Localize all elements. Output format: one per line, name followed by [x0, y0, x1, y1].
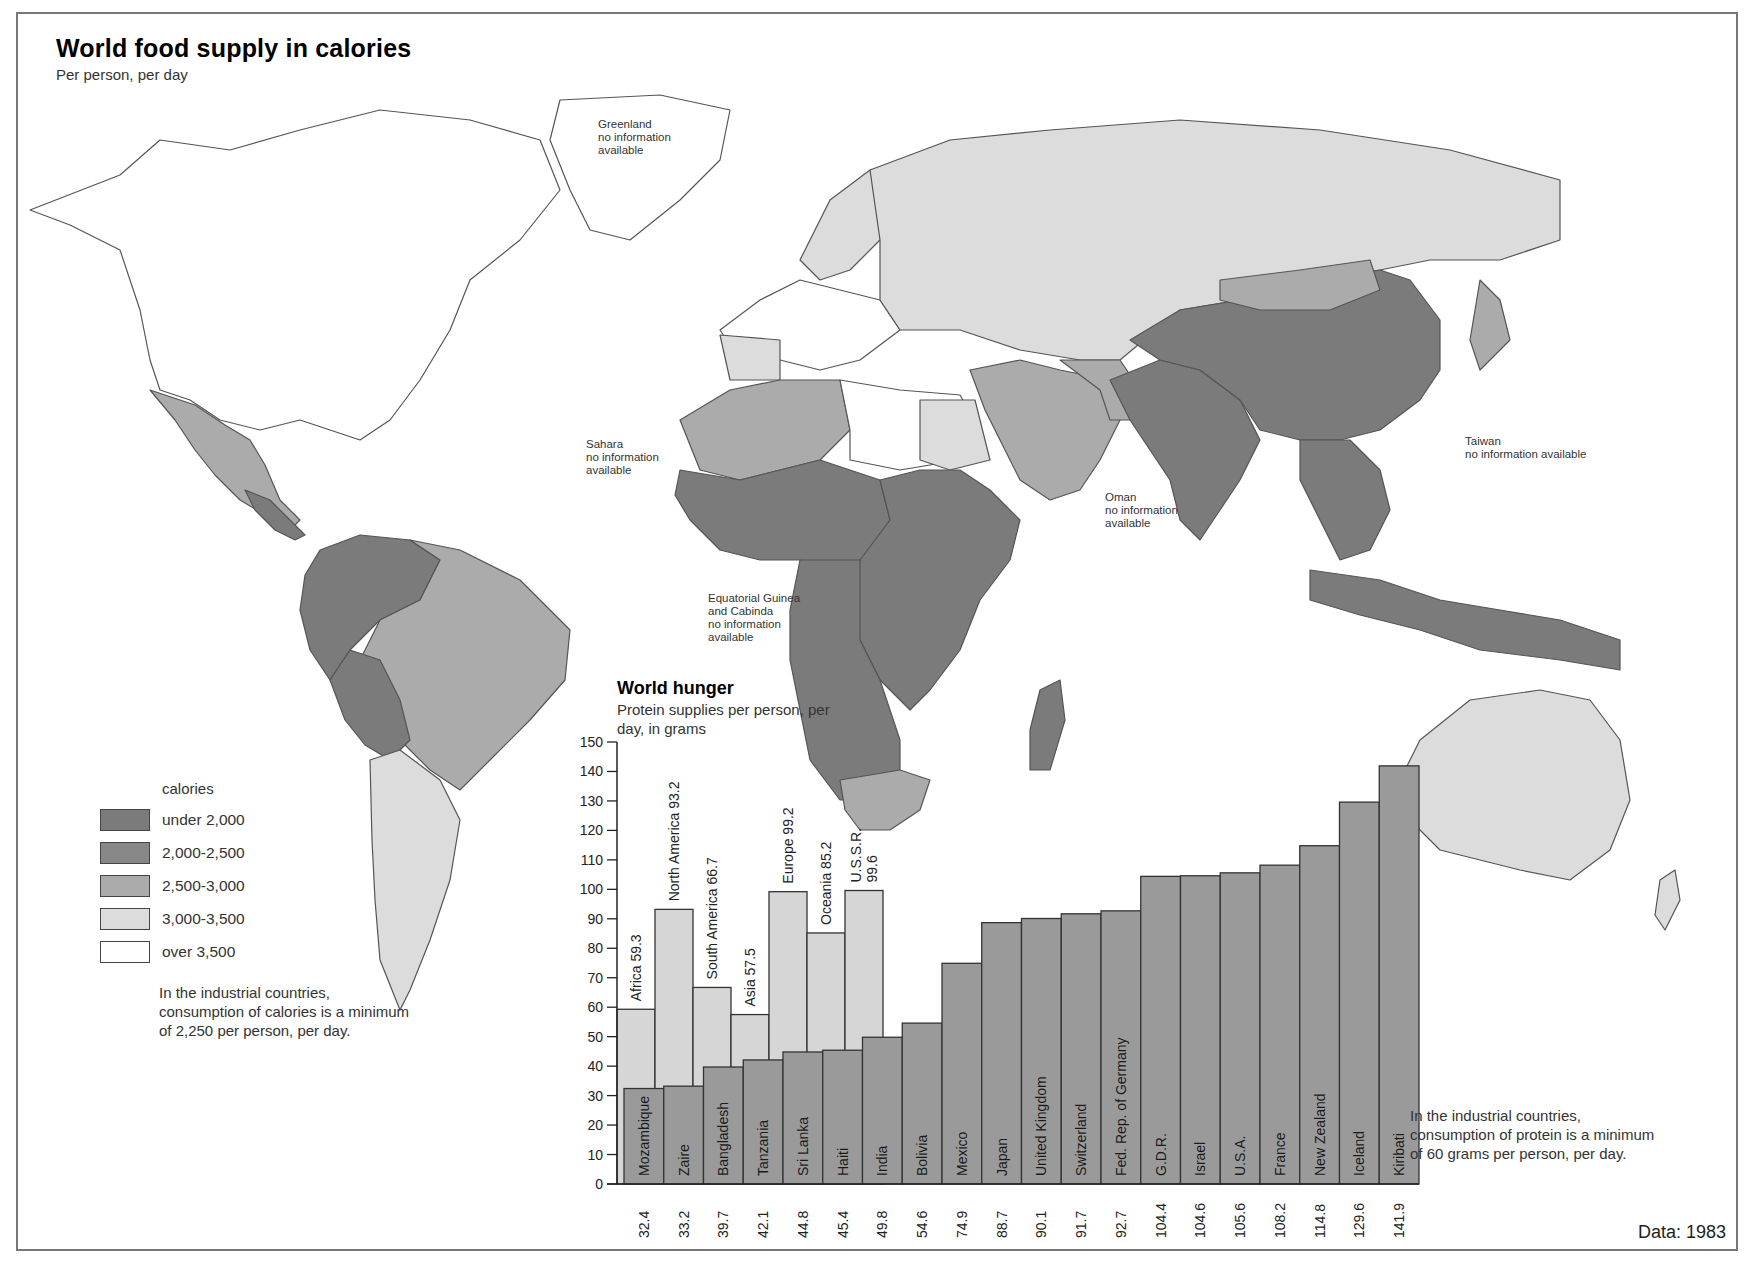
country-label: Fed. Rep. of Germany: [1113, 1037, 1129, 1176]
region-label: Asia 57.5: [742, 948, 758, 1007]
region-label: North America 93.2: [666, 781, 682, 901]
country-label: Switzerland: [1073, 1104, 1089, 1176]
country-value: 45.4: [835, 1211, 851, 1238]
region-value: 99.6: [864, 855, 880, 882]
country-value: 141.9: [1391, 1203, 1407, 1238]
country-label: Sri Lanka: [795, 1117, 811, 1176]
y-tick-label: 90: [587, 911, 603, 927]
country-label: Japan: [994, 1138, 1010, 1176]
country-value: 104.4: [1153, 1203, 1169, 1238]
region-label: Oceania 85.2: [818, 841, 834, 924]
y-tick-label: 40: [587, 1058, 603, 1074]
country-label: Bangladesh: [715, 1102, 731, 1176]
country-value: 49.8: [874, 1211, 890, 1238]
country-value: 74.9: [954, 1211, 970, 1238]
y-tick-label: 80: [587, 940, 603, 956]
country-label: France: [1272, 1132, 1288, 1176]
country-bar: [1340, 802, 1380, 1184]
country-label: United Kingdom: [1033, 1076, 1049, 1176]
y-tick-label: 10: [587, 1147, 603, 1163]
y-tick-label: 150: [580, 734, 604, 750]
y-tick-label: 110: [581, 852, 604, 868]
y-tick-label: 60: [587, 999, 603, 1015]
country-value: 114.8: [1312, 1204, 1328, 1238]
country-bar: [1181, 876, 1221, 1184]
country-value: 104.6: [1192, 1203, 1208, 1238]
country-label: Zaire: [676, 1144, 692, 1176]
country-label: New Zealand: [1312, 1094, 1328, 1177]
country-value: 105.6: [1232, 1203, 1248, 1238]
y-tick-label: 70: [587, 970, 603, 986]
country-label: Tanzania: [755, 1120, 771, 1176]
y-tick-label: 0: [595, 1176, 603, 1192]
country-value: 91.7: [1073, 1211, 1089, 1238]
region-label: Europe 99.2: [780, 807, 796, 883]
country-value: 42.1: [755, 1211, 771, 1238]
country-value: 108.2: [1272, 1203, 1288, 1238]
country-label: Iceland: [1351, 1131, 1367, 1176]
y-tick-label: 120: [580, 822, 604, 838]
country-value: 33.2: [676, 1211, 692, 1238]
data-year: Data: 1983: [1638, 1222, 1726, 1243]
country-label: India: [874, 1145, 890, 1176]
country-value: 90.1: [1033, 1211, 1049, 1238]
y-tick-label: 30: [587, 1088, 603, 1104]
country-label: Israel: [1192, 1142, 1208, 1176]
y-tick-label: 50: [587, 1029, 603, 1045]
country-label: G.D.R.: [1153, 1133, 1169, 1176]
y-tick-label: 20: [587, 1117, 603, 1133]
country-value: 32.4: [636, 1211, 652, 1238]
y-tick-label: 140: [580, 763, 604, 779]
country-value: 88.7: [994, 1211, 1010, 1238]
protein-note: In the industrial countries, consumption…: [1410, 1106, 1670, 1163]
country-label: Kiribati: [1391, 1133, 1407, 1176]
country-label: Mozambique: [636, 1096, 652, 1176]
country-label: Haiti: [835, 1148, 851, 1176]
protein-bar-chart: Africa 59.3North America 93.2South Ameri…: [0, 0, 1753, 1265]
region-label: U.S.S.R.: [848, 828, 864, 882]
country-value: 129.6: [1351, 1203, 1367, 1238]
country-value: 54.6: [914, 1211, 930, 1238]
country-label: U.S.A.: [1232, 1136, 1248, 1176]
country-label: Mexico: [954, 1131, 970, 1176]
y-tick-label: 100: [580, 881, 604, 897]
country-label: Bolivia: [914, 1135, 930, 1176]
country-value: 39.7: [715, 1211, 731, 1238]
country-value: 44.8: [795, 1211, 811, 1238]
country-value: 92.7: [1113, 1211, 1129, 1238]
y-tick-label: 130: [580, 793, 604, 809]
region-label: Africa 59.3: [628, 934, 644, 1001]
region-label: South America 66.7: [704, 857, 720, 979]
